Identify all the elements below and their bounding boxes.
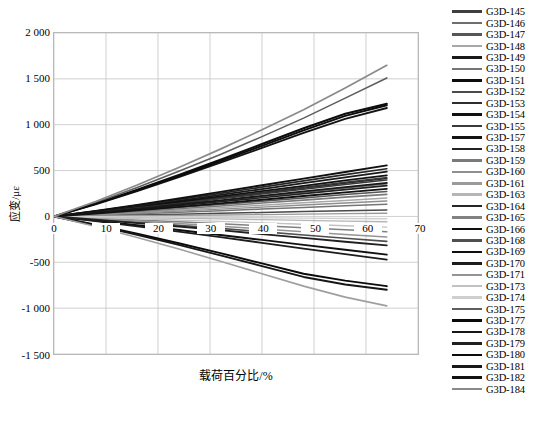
legend-item-label: G3D-154 bbox=[486, 109, 525, 120]
legend-item[interactable]: G3D-155 bbox=[452, 120, 546, 131]
legend-item[interactable]: G3D-148 bbox=[452, 40, 546, 51]
legend-color-swatch bbox=[452, 22, 482, 25]
legend-item[interactable]: G3D-166 bbox=[452, 223, 546, 234]
legend-item-label: G3D-157 bbox=[486, 132, 525, 143]
legend-item[interactable]: G3D-163 bbox=[452, 189, 546, 200]
chart-legend: G3D-145G3D-146G3D-147G3D-148G3D-149G3D-1… bbox=[452, 6, 546, 395]
legend-color-swatch bbox=[452, 148, 482, 151]
legend-item[interactable]: G3D-178 bbox=[452, 326, 546, 337]
legend-color-swatch bbox=[452, 285, 482, 288]
legend-item-label: G3D-147 bbox=[486, 29, 525, 40]
legend-color-swatch bbox=[452, 171, 482, 174]
legend-item[interactable]: G3D-146 bbox=[452, 17, 546, 28]
legend-item[interactable]: G3D-147 bbox=[452, 29, 546, 40]
legend-item[interactable]: G3D-170 bbox=[452, 258, 546, 269]
legend-item-label: G3D-184 bbox=[486, 384, 525, 395]
legend-item[interactable]: G3D-154 bbox=[452, 109, 546, 120]
legend-color-swatch bbox=[452, 159, 482, 162]
legend-item[interactable]: G3D-179 bbox=[452, 338, 546, 349]
legend-item[interactable]: G3D-177 bbox=[452, 315, 546, 326]
legend-item[interactable]: G3D-160 bbox=[452, 166, 546, 177]
legend-item[interactable]: G3D-165 bbox=[452, 212, 546, 223]
legend-item-label: G3D-173 bbox=[486, 281, 525, 292]
legend-item-label: G3D-152 bbox=[486, 86, 525, 97]
plot-wrapper: -1 500-1 000-50005001 0001 5002 000 0102… bbox=[0, 0, 440, 423]
x-tick-label: 40 bbox=[249, 223, 277, 234]
legend-item-label: G3D-163 bbox=[486, 189, 525, 200]
legend-item[interactable]: G3D-157 bbox=[452, 132, 546, 143]
legend-item-label: G3D-168 bbox=[486, 235, 525, 246]
legend-item-label: G3D-151 bbox=[486, 75, 525, 86]
legend-item-label: G3D-146 bbox=[486, 18, 525, 29]
legend-color-swatch bbox=[452, 354, 482, 357]
legend-color-swatch bbox=[452, 125, 482, 128]
legend-color-swatch bbox=[452, 91, 482, 94]
legend-item[interactable]: G3D-149 bbox=[452, 52, 546, 63]
legend-item[interactable]: G3D-173 bbox=[452, 281, 546, 292]
legend-color-swatch bbox=[452, 33, 482, 36]
legend-item-label: G3D-149 bbox=[486, 52, 525, 63]
legend-item[interactable]: G3D-175 bbox=[452, 303, 546, 314]
legend-item-label: G3D-160 bbox=[486, 166, 525, 177]
legend-item-label: G3D-150 bbox=[486, 63, 525, 74]
legend-item[interactable]: G3D-152 bbox=[452, 86, 546, 97]
legend-item-label: G3D-159 bbox=[486, 155, 525, 166]
legend-item-label: G3D-181 bbox=[486, 361, 525, 372]
x-tick-label: 60 bbox=[354, 223, 382, 234]
legend-item-label: G3D-182 bbox=[486, 372, 525, 383]
legend-item-label: G3D-179 bbox=[486, 338, 525, 349]
legend-item-label: G3D-158 bbox=[486, 143, 525, 154]
legend-color-swatch bbox=[452, 251, 482, 254]
legend-color-swatch bbox=[452, 216, 482, 219]
legend-color-swatch bbox=[452, 102, 482, 105]
legend-item[interactable]: G3D-184 bbox=[452, 383, 546, 394]
x-tick-label: 50 bbox=[301, 223, 329, 234]
x-tick-label: 10 bbox=[92, 223, 120, 234]
legend-item[interactable]: G3D-151 bbox=[452, 75, 546, 86]
legend-item-label: G3D-155 bbox=[486, 121, 525, 132]
strain-load-chart-figure: -1 500-1 000-50005001 0001 5002 000 0102… bbox=[0, 0, 546, 423]
legend-color-swatch bbox=[452, 10, 482, 13]
legend-item[interactable]: G3D-161 bbox=[452, 178, 546, 189]
legend-color-swatch bbox=[452, 228, 482, 231]
legend-item[interactable]: G3D-174 bbox=[452, 292, 546, 303]
legend-item-label: G3D-170 bbox=[486, 258, 525, 269]
x-tick-label: 0 bbox=[40, 223, 68, 234]
legend-item-label: G3D-177 bbox=[486, 315, 525, 326]
legend-item[interactable]: G3D-181 bbox=[452, 361, 546, 372]
legend-item[interactable]: G3D-182 bbox=[452, 372, 546, 383]
legend-item[interactable]: G3D-169 bbox=[452, 246, 546, 257]
y-axis-title: 应变/με bbox=[6, 176, 22, 232]
legend-item[interactable]: G3D-153 bbox=[452, 98, 546, 109]
legend-item[interactable]: G3D-164 bbox=[452, 200, 546, 211]
legend-item[interactable]: G3D-168 bbox=[452, 235, 546, 246]
legend-color-swatch bbox=[452, 342, 482, 345]
legend-color-swatch bbox=[452, 68, 482, 71]
legend-color-swatch bbox=[452, 365, 482, 368]
legend-color-swatch bbox=[452, 274, 482, 277]
legend-color-swatch bbox=[452, 319, 482, 322]
legend-color-swatch bbox=[452, 205, 482, 208]
legend-item-label: G3D-153 bbox=[486, 98, 525, 109]
legend-item[interactable]: G3D-150 bbox=[452, 63, 546, 74]
legend-item[interactable]: G3D-171 bbox=[452, 269, 546, 280]
x-axis-tick-labels: 010203040506070 bbox=[0, 0, 440, 423]
x-tick-label: 30 bbox=[197, 223, 225, 234]
legend-color-swatch bbox=[452, 308, 482, 311]
x-axis-title: 载荷百分比/% bbox=[53, 366, 419, 384]
legend-item[interactable]: G3D-145 bbox=[452, 6, 546, 17]
legend-item-label: G3D-175 bbox=[486, 304, 525, 315]
legend-item[interactable]: G3D-158 bbox=[452, 143, 546, 154]
legend-item-label: G3D-171 bbox=[486, 269, 525, 280]
legend-item-label: G3D-148 bbox=[486, 41, 525, 52]
legend-item-label: G3D-169 bbox=[486, 246, 525, 257]
legend-item-label: G3D-161 bbox=[486, 178, 525, 189]
legend-item[interactable]: G3D-159 bbox=[452, 155, 546, 166]
legend-item-label: G3D-180 bbox=[486, 349, 525, 360]
legend-color-swatch bbox=[452, 182, 482, 185]
legend-color-swatch bbox=[452, 56, 482, 59]
legend-item[interactable]: G3D-180 bbox=[452, 349, 546, 360]
legend-item-label: G3D-164 bbox=[486, 201, 525, 212]
legend-color-swatch bbox=[452, 193, 482, 196]
legend-color-swatch bbox=[452, 239, 482, 242]
